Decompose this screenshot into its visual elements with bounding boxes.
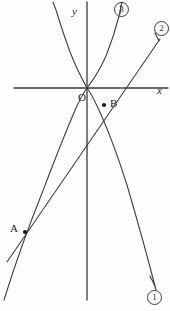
origin-label: O bbox=[78, 92, 86, 103]
curve-1-parabola bbox=[4, 88, 156, 300]
curve-3-marker: 3 bbox=[114, 2, 129, 17]
x-axis-label: x bbox=[157, 85, 162, 96]
curve-2-marker: 2 bbox=[154, 21, 169, 36]
curve-1-marker: 1 bbox=[147, 290, 162, 305]
point-b-marker bbox=[102, 103, 106, 107]
curve-2-line bbox=[7, 39, 160, 262]
point-b-label: B bbox=[110, 98, 117, 109]
point-a-marker bbox=[23, 230, 27, 234]
geometry-figure: O x y A B 1 2 3 bbox=[0, 0, 170, 311]
curve-unlabeled-parabola bbox=[53, 2, 87, 88]
figure-canvas bbox=[0, 0, 170, 311]
y-axis-label: y bbox=[72, 6, 77, 17]
point-a-label: A bbox=[10, 223, 18, 234]
